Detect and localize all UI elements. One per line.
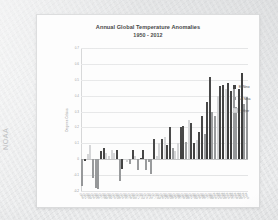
bar-slot [246,48,249,191]
bar-series [81,48,248,191]
noaa-watermark: NOAA [2,128,9,150]
chart-subtitle: 1950 - 2012 [37,32,259,40]
legend-swatch-icon [233,108,238,113]
legend-label: La Nina [239,97,251,101]
y-tick-label: -0.1 [74,173,79,177]
y-tick-label: 0.2 [75,125,79,129]
y-tick-label: 0.5 [75,78,79,82]
y-tick-label: 0.4 [75,94,79,98]
legend-label: El Nino [239,85,250,89]
chart-card: Annual Global Temperature Anomalies 1950… [36,14,260,208]
y-axis-label: Degrees Celsius [65,108,69,131]
y-tick-label: 0.3 [75,110,79,114]
y-tick-label: 0 [77,157,79,161]
legend-label: Other [241,109,249,113]
y-tick-label: 0.7 [75,46,79,50]
legend-item[interactable]: La Nina [233,97,250,101]
chart-legend: El NinoLa NinaOther [233,85,250,113]
x-tick-labels: 1950195119521953195419551956195719581959… [81,191,248,217]
legend-swatch-icon [233,85,236,88]
legend-swatch-icon [233,97,236,100]
legend-item[interactable]: El Nino [233,85,250,89]
chart-title-block: Annual Global Temperature Anomalies 1950… [37,24,259,39]
plot-area: 0.70.60.50.40.30.20.10-0.1-0.2 Degrees C… [81,48,248,191]
y-tick-label: -0.2 [74,189,79,193]
y-tick-label: 0.1 [75,141,79,145]
legend-item[interactable]: Other [233,108,250,113]
y-tick-label: 0.6 [75,62,79,66]
chart-title: Annual Global Temperature Anomalies [37,24,259,32]
